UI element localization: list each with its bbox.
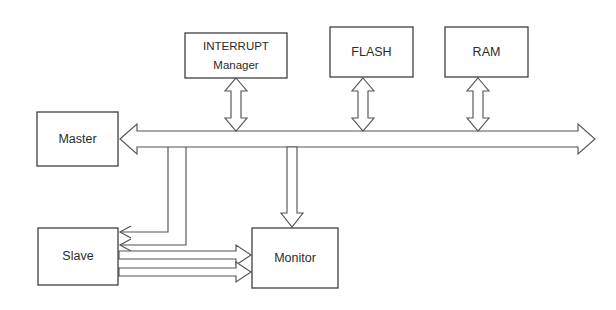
slave-monitor-upper-arrow (119, 245, 251, 265)
bus-flash-arrow (352, 78, 374, 131)
block-ram[interactable]: RAM (445, 27, 528, 77)
block-master[interactable]: Master (37, 112, 118, 166)
bus-ram-arrow (467, 78, 489, 131)
block-monitor[interactable]: Monitor (252, 228, 338, 288)
connector-bus-to-slave-lower (120, 147, 186, 251)
bus-interrupt-manager-arrow (225, 78, 247, 131)
flash-label: FLASH (351, 45, 391, 59)
system-bus-arrow (120, 124, 595, 154)
bus-monitor-arrow (281, 147, 303, 227)
connector-bus-to-monitor (281, 147, 303, 227)
connector-bus-to-ram (467, 78, 489, 131)
ram-label: RAM (473, 45, 501, 59)
bus-slave-upper-line (120, 147, 168, 232)
block-slave[interactable]: Slave (38, 228, 118, 285)
connector-bus-to-flash (352, 78, 374, 131)
block-interrupt-manager[interactable]: INTERRUPT Manager (185, 33, 287, 78)
slave-label: Slave (62, 249, 93, 263)
block-diagram-container: INTERRUPT Manager FLASH RAM Master Slave… (0, 0, 616, 310)
slave-monitor-lower-arrow (119, 262, 251, 282)
connector-bus-to-slave-upper (120, 147, 168, 238)
block-flash[interactable]: FLASH (330, 27, 413, 77)
connector-bus-to-interrupt-manager (225, 78, 247, 131)
connector-slave-to-monitor-upper (119, 245, 251, 265)
monitor-label: Monitor (274, 251, 316, 265)
interrupt-manager-label-line2: Manager (213, 59, 259, 71)
connector-slave-to-monitor-lower (119, 262, 251, 282)
master-label: Master (58, 132, 96, 146)
bus-slave-lower-line (120, 147, 186, 245)
block-diagram-canvas: INTERRUPT Manager FLASH RAM Master Slave… (0, 0, 616, 310)
interrupt-manager-label-line1: INTERRUPT (203, 40, 269, 52)
connector-system-bus (120, 124, 595, 154)
